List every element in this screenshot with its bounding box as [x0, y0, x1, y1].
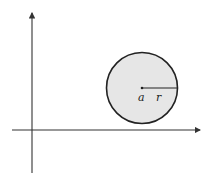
- radius-label: r: [156, 91, 162, 104]
- diagram-canvas: a r: [0, 0, 208, 178]
- center-label: a: [138, 91, 145, 104]
- center-point: [141, 87, 144, 90]
